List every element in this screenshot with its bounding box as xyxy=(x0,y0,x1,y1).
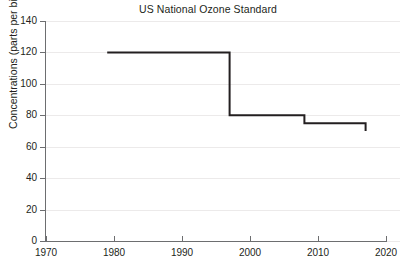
ozone-standard-line-path xyxy=(107,52,365,131)
ozone-standard-chart: US National Ozone Standard Concentration… xyxy=(0,0,416,273)
ozone-standard-step-line xyxy=(0,0,416,273)
